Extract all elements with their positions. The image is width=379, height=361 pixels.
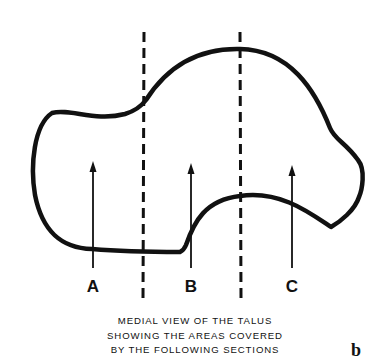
- panel-label: b: [351, 340, 361, 361]
- arrow-b: [188, 163, 195, 268]
- figure-caption: MEDIAL VIEW OF THE TALUS SHOWING THE ARE…: [95, 314, 295, 358]
- caption-line-3: BY THE FOLLOWING SECTIONS: [95, 343, 295, 358]
- caption-line-2: SHOWING THE AREAS COVERED: [95, 329, 295, 344]
- label-c: C: [286, 277, 298, 296]
- caption-line-1: MEDIAL VIEW OF THE TALUS: [95, 314, 295, 329]
- section-divider-1: [143, 32, 144, 300]
- arrow-a: [90, 161, 97, 268]
- label-a: A: [87, 277, 99, 296]
- talus-diagram: A B C: [0, 0, 379, 361]
- label-b: B: [185, 277, 197, 296]
- arrow-c: [289, 165, 296, 268]
- talus-outline: [33, 49, 363, 252]
- section-divider-2: [240, 32, 241, 298]
